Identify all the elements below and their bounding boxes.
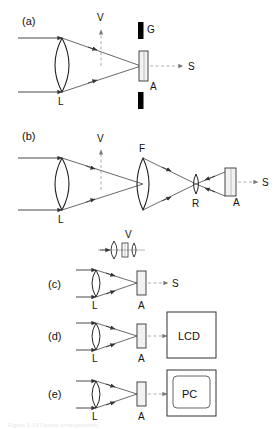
- panel-a-label: (a): [22, 15, 35, 27]
- panel-d-label: (d): [48, 330, 61, 342]
- aperture-A-c-label: A: [138, 300, 145, 311]
- ray-conv-top-b: [62, 158, 143, 184]
- signal-S-b-label: S: [262, 177, 269, 188]
- signal-S-a-label: S: [188, 61, 195, 72]
- panel-a: (a) L V G A S: [18, 12, 195, 109]
- lens-L-e: [92, 381, 100, 408]
- ray-arrow-bottom-d: [106, 344, 115, 347]
- aperture-A-c: [137, 271, 146, 295]
- v-inset-label: V: [125, 229, 132, 240]
- ray-arrow-R-bottom-b: [205, 188, 215, 192]
- ray-conv-top-a: [62, 38, 141, 66]
- lens-L-a-label: L: [58, 96, 64, 107]
- aperture-A-d: [137, 324, 146, 348]
- lens-L-c-label: L: [92, 300, 98, 311]
- figure-canvas: (a) L V G A S: [0, 0, 279, 429]
- ray-arrow-top-c: [106, 273, 115, 276]
- ray-conv-top-c: [96, 270, 137, 283]
- ray-conv-bottom-b: [62, 184, 143, 210]
- ray-arrow-bottom-c: [106, 291, 115, 294]
- aperture-A-e-label: A: [138, 411, 145, 422]
- ray-arrow-bottom-e: [106, 402, 115, 405]
- ray-arrow-bottom-a: [88, 80, 97, 83]
- lens-L-b-label: L: [58, 214, 64, 225]
- axis-V-b-label: V: [97, 133, 104, 144]
- lcd-display-d-label: LCD: [178, 330, 200, 342]
- aperture-A-e: [137, 382, 146, 406]
- ray-conv-bottom-c: [96, 283, 137, 297]
- ray-arrow-top-d: [106, 326, 115, 329]
- panel-c: (c) L A S: [48, 270, 179, 311]
- ray-conv-bottom-d: [96, 336, 137, 350]
- aperture-A-b-label: A: [233, 197, 240, 208]
- panel-b: (b) L V F R: [18, 130, 269, 225]
- lens-F-b-label: F: [139, 143, 145, 154]
- ray-arrow-bottom-b: [86, 199, 95, 202]
- grating-G-bottom-a: [138, 92, 144, 109]
- lens-L-c: [92, 270, 100, 297]
- ray-arrow-top-a: [88, 47, 97, 50]
- lens-L-b: [55, 158, 69, 210]
- ray-arrow-F-top-b: [162, 167, 171, 171]
- aperture-A-b: [225, 168, 236, 196]
- ray-arrow-R-top-b: [205, 176, 215, 180]
- lens-L-d: [92, 323, 100, 350]
- panel-b-label: (b): [22, 130, 35, 142]
- lens-R-b-label: R: [192, 198, 199, 209]
- grating-G-a-label: G: [147, 24, 155, 35]
- axis-V-a-label: V: [97, 12, 104, 23]
- lens-L-a: [55, 38, 69, 92]
- aperture-A-a-label: A: [150, 81, 157, 92]
- optics-figure: (a) L V G A S: [0, 0, 279, 429]
- ray-arrow-top-e: [106, 384, 115, 387]
- ray-conv-bottom-e: [96, 394, 137, 408]
- ray-arrow-top-b: [86, 166, 95, 169]
- aperture-A-d-label: A: [138, 353, 145, 364]
- panel-d: (d) L A LCD: [48, 312, 216, 364]
- ray-conv-bottom-a: [62, 66, 141, 92]
- ray-conv-top-d: [96, 323, 137, 336]
- grating-G-top-a: [138, 22, 144, 39]
- lens-L-d-label: L: [92, 353, 98, 364]
- lens-L-e-label: L: [92, 411, 98, 422]
- ray-arrow-F-bottom-b: [162, 197, 171, 201]
- signal-S-c-label: S: [172, 278, 179, 289]
- v-inset: V: [98, 229, 145, 259]
- panel-e-label: (e): [48, 388, 61, 400]
- pc-monitor-e-label: PC: [182, 388, 197, 400]
- aperture-A-a: [139, 51, 148, 81]
- figure-caption: Figure 1.13 Optical arrangements.: [8, 422, 272, 429]
- panel-c-label: (c): [48, 278, 61, 290]
- ray-F-bottom-b: [143, 184, 196, 210]
- panel-e: (e) L A PC: [48, 370, 216, 422]
- ray-F-top-b: [143, 158, 196, 184]
- ray-conv-top-e: [96, 381, 137, 394]
